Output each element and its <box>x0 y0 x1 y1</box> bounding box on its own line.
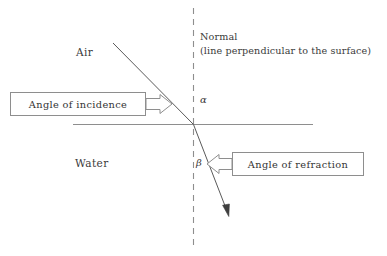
angle-of-refraction-callout: Angle of refraction <box>232 152 364 176</box>
angle-of-incidence-callout: Angle of incidence <box>10 92 146 116</box>
refraction-diagram: Air Water Normal (line perpendicular to … <box>0 0 387 256</box>
normal-description: (line perpendicular to the surface) <box>200 45 371 57</box>
air-label: Air <box>76 46 93 59</box>
block-arrow-right-icon <box>146 95 172 114</box>
water-label: Water <box>75 157 109 170</box>
angle-of-refraction-symbol: β <box>196 157 202 168</box>
arrowhead-icon <box>223 204 230 217</box>
normal-annotation: Normal (line perpendicular to the surfac… <box>200 31 371 57</box>
angle-of-incidence-symbol: α <box>200 94 207 105</box>
normal-label: Normal <box>200 31 371 43</box>
block-arrow-left-icon <box>207 155 232 174</box>
